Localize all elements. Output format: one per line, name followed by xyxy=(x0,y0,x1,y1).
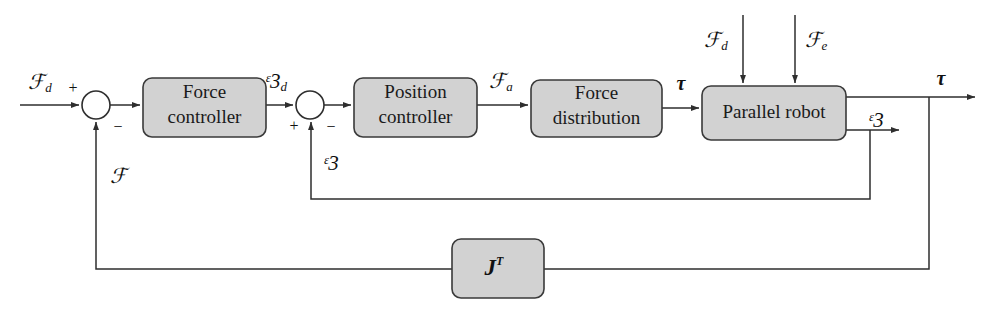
force-error-sum[interactable] xyxy=(82,91,110,119)
position-controller-label-line2: controller xyxy=(379,106,454,127)
signal-actuator-force: ℱa xyxy=(489,69,513,94)
signal-pose-output: ᵋ3 xyxy=(868,108,883,132)
signal-force-feedback: ℱ xyxy=(110,164,130,188)
wire-jacobian-to-force-sum xyxy=(96,122,452,269)
signal-torque-output: τ xyxy=(937,67,947,89)
force-controller-label-line2: controller xyxy=(168,106,243,127)
wire-layer xyxy=(20,15,975,269)
block-force-distribution[interactable]: Force distribution xyxy=(531,80,662,137)
position-error-sum[interactable] xyxy=(296,91,324,119)
position-controller-label-line1: Position xyxy=(384,81,447,102)
block-position-controller[interactable]: Position controller xyxy=(354,78,477,137)
force-controller-label-line1: Force xyxy=(183,81,226,102)
parallel-robot-label: Parallel robot xyxy=(723,101,827,122)
signal-desired-force-input: ℱd xyxy=(28,70,52,95)
signal-torque-after-distribution: τ xyxy=(677,72,687,94)
signal-pose-feedback: ᵋ3 xyxy=(323,151,338,175)
position-sum-plus-sign: + xyxy=(289,117,298,134)
force-distribution-label-line2: distribution xyxy=(553,107,641,128)
force-distribution-label-line1: Force xyxy=(575,82,618,103)
signal-desired-pose: ᵋ3d xyxy=(265,69,287,94)
signal-disturbance-force: ℱd xyxy=(704,28,728,53)
position-sum-minus-sign: − xyxy=(326,118,335,135)
signal-environment-force: ℱe xyxy=(805,28,828,53)
force-sum-minus-sign: − xyxy=(113,118,122,135)
force-sum-plus-sign: + xyxy=(68,79,77,96)
block-jacobian-transpose[interactable]: JT xyxy=(452,239,544,298)
control-block-diagram: + − + − Force controller Position contro… xyxy=(0,0,983,320)
block-parallel-robot[interactable]: Parallel robot xyxy=(702,86,846,140)
jacobian-transpose-box[interactable] xyxy=(452,239,544,298)
block-force-controller[interactable]: Force controller xyxy=(143,78,266,137)
